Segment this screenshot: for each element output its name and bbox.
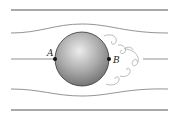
point-a-marker	[53, 57, 57, 61]
diagram-canvas: A B	[0, 0, 178, 116]
flow-diagram: A B	[0, 0, 178, 116]
upper-streamline	[11, 24, 168, 33]
lower-streamline	[11, 89, 168, 96]
label-b: B	[112, 55, 120, 65]
point-b-marker	[107, 57, 111, 61]
label-a: A	[46, 48, 54, 58]
sphere	[55, 32, 109, 86]
